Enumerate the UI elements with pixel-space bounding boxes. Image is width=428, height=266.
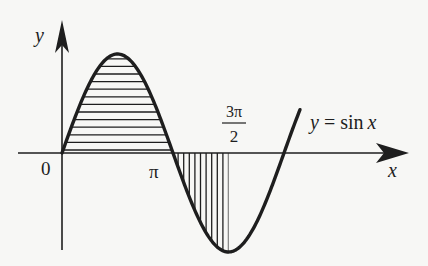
curve-label-y: y	[308, 111, 319, 134]
y-axis-label: y	[33, 24, 44, 47]
three-pi-over-two-numerator: 3π	[226, 103, 242, 120]
origin-label: 0	[41, 158, 51, 179]
pi-tick-label: π	[149, 161, 159, 182]
vertical-hatching	[178, 153, 228, 260]
diagram-canvas: y x 0 π 3π 2 y = sinx	[0, 0, 428, 266]
horizontal-hatching	[55, 51, 180, 150]
three-pi-over-two-denominator: 2	[230, 127, 239, 146]
x-axis-label: x	[387, 159, 397, 181]
sine-graph: y x 0 π 3π 2 y = sinx	[0, 0, 428, 266]
curve-label-x: x	[367, 111, 377, 133]
curve-label: y = sinx	[308, 111, 377, 134]
curve-label-eq: = sin	[319, 111, 364, 133]
